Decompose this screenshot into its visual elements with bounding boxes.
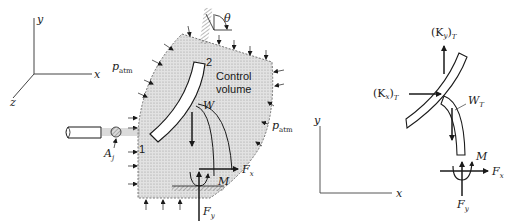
left-axes: y x z: [9, 13, 101, 109]
right-force-x-label: Fx: [491, 165, 504, 180]
weight-t-leader: [455, 104, 466, 110]
z-axis-line: [13, 74, 34, 98]
section-1-label: 1: [139, 143, 145, 155]
force-x-label: Fx: [241, 163, 254, 178]
z-axis-label: z: [9, 96, 16, 109]
right-y-axis-label: y: [313, 114, 321, 127]
y-axis-label: y: [36, 13, 44, 26]
force-y-label: Fy: [202, 205, 216, 220]
free-body-support: [441, 96, 465, 155]
jet-area-leader: [114, 139, 116, 148]
right-x-axis-label: x: [396, 187, 403, 200]
weight-t-label: WT: [468, 94, 485, 109]
pressure-right-label: patm: [272, 119, 293, 134]
jet-area-circle: [111, 127, 121, 137]
right-axes: y x: [313, 114, 403, 200]
control-volume-label-2: volume: [216, 83, 251, 95]
theta-label: θ: [224, 12, 231, 25]
right-moment-label: M: [475, 150, 488, 163]
weight-label: W: [203, 99, 216, 112]
outlet-jet: [200, 8, 213, 45]
control-volume-label-1: Control: [216, 70, 251, 82]
diagram-canvas: y x z θ 2 1 Control volume W: [0, 0, 513, 221]
moment-label: M: [217, 175, 230, 188]
jet-area-label: Aj: [103, 147, 115, 162]
pressure-left-label: patm: [112, 60, 133, 75]
ground: [172, 186, 224, 191]
x-axis-label: x: [94, 68, 101, 81]
section-2-label: 2: [206, 56, 212, 68]
ky-label: (Ky)T: [431, 26, 458, 41]
kx-label: (Kx)T: [373, 87, 400, 102]
right-force-y-label: Fy: [456, 198, 470, 213]
nozzle: [66, 127, 101, 138]
